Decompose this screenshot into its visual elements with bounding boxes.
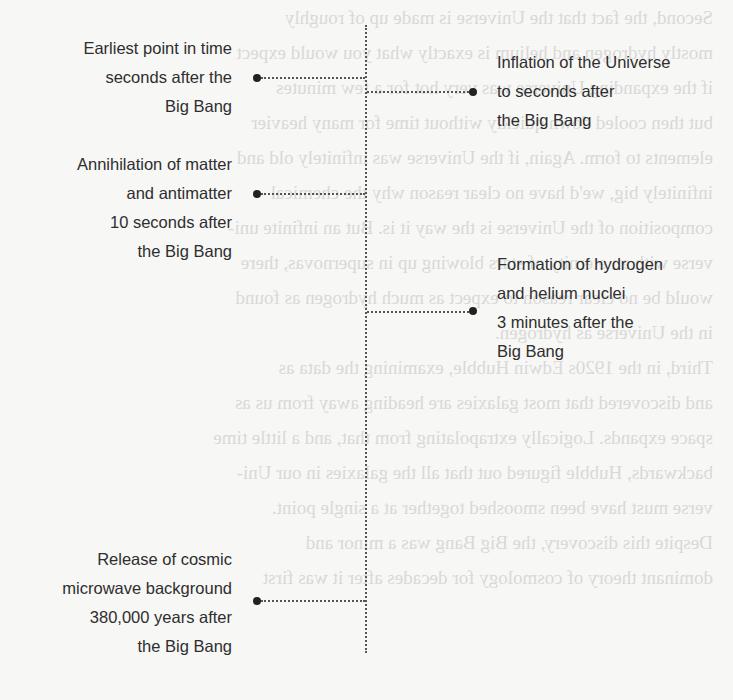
event-line: Big Bang (497, 337, 663, 366)
event-line: and helium nuclei (497, 279, 663, 308)
event-line: microwave background (62, 574, 232, 603)
event-line: Inflation of the Universe (497, 48, 670, 77)
event-annihilation-label: Annihilation of matter and antimatter 10… (77, 150, 232, 266)
event-line: the Big Bang (497, 106, 670, 135)
event-cmb-marker (253, 597, 261, 605)
event-line: Big Bang (83, 92, 232, 121)
event-annihilation-marker (253, 190, 261, 198)
event-cmb-connector (261, 600, 365, 602)
event-line: Formation of hydrogen (497, 250, 663, 279)
event-inflation-label: Inflation of the Universe to seconds aft… (497, 48, 670, 135)
event-line: 380,000 years after (62, 603, 232, 632)
event-annihilation-connector (261, 193, 365, 195)
event-inflation-marker (469, 88, 477, 96)
event-line: 10 seconds after (77, 208, 232, 237)
event-earliest-point-marker (253, 74, 261, 82)
event-inflation-connector (367, 91, 469, 93)
event-line: 3 minutes after the (497, 308, 663, 337)
event-cmb-label: Release of cosmic microwave background 3… (62, 545, 232, 661)
event-nucleosynthesis-marker (469, 307, 477, 315)
event-earliest-point-label: Earliest point in time seconds after the… (83, 34, 232, 121)
event-line: Release of cosmic (62, 545, 232, 574)
event-nucleosynthesis-connector (367, 311, 469, 313)
event-line: and antimatter (77, 179, 232, 208)
event-line: to seconds after (497, 77, 670, 106)
event-earliest-point-connector (261, 77, 365, 79)
timeline-axis (365, 25, 367, 653)
event-line: the Big Bang (62, 632, 232, 661)
event-nucleosynthesis-label: Formation of hydrogen and helium nuclei … (497, 250, 663, 366)
event-line: Earliest point in time (83, 34, 232, 63)
event-line: Annihilation of matter (77, 150, 232, 179)
event-line: seconds after the (83, 63, 232, 92)
event-line: the Big Bang (77, 237, 232, 266)
